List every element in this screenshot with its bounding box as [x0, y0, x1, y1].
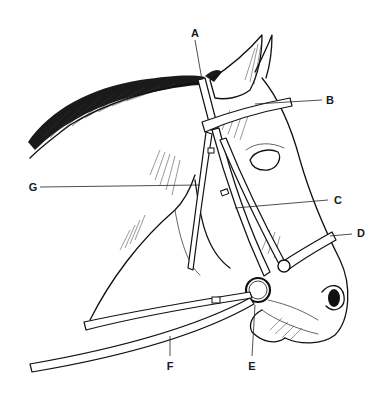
browband-strap — [202, 98, 292, 132]
label-e: E — [248, 361, 255, 372]
leader-g — [40, 185, 200, 187]
mane — [28, 70, 222, 150]
label-a: A — [191, 28, 199, 39]
horse-bridle-diagram — [0, 0, 387, 394]
eye — [246, 144, 284, 170]
cheekpiece-strap — [212, 128, 270, 276]
label-c: C — [334, 195, 342, 206]
ears — [210, 35, 272, 99]
leader-lines — [40, 40, 352, 356]
rein-lower — [30, 298, 254, 372]
label-g: G — [29, 182, 38, 193]
leader-a — [195, 40, 202, 80]
leader-e — [252, 305, 255, 356]
label-d: D — [357, 228, 365, 239]
label-f: F — [167, 361, 174, 372]
label-b: B — [326, 95, 334, 106]
